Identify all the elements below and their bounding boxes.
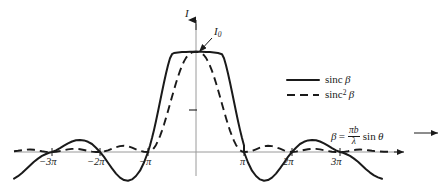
y-axis-label: I: [185, 8, 189, 19]
legend-label-sinc: sinc: [325, 73, 343, 85]
equation-sin-function: sin: [363, 130, 376, 142]
legend-item-sinc-squared: sinc2 β: [325, 89, 354, 100]
equation-fraction: πbλ: [348, 126, 360, 146]
legend-variable-beta-squared: β: [349, 88, 354, 100]
x-tick-label-neg2pi: −2π: [87, 157, 105, 168]
legend-variable-beta: β: [345, 73, 350, 85]
sinc-curve: [14, 52, 382, 181]
x-tick-label-2pi: 2π: [283, 157, 294, 168]
x-tick-label-pi: π: [240, 157, 245, 168]
x-tick-label-3pi: 3π: [331, 157, 342, 168]
peak-annotation-arrow: [199, 38, 212, 52]
equation-beta-symbol: β: [331, 130, 336, 142]
plot-canvas: [0, 0, 448, 196]
legend-label-sinc-squared: sinc: [325, 88, 343, 100]
equation-denominator: λ: [348, 136, 360, 147]
legend-item-sinc: sinc β: [325, 74, 350, 85]
peak-intensity-subscript: 0: [218, 30, 222, 39]
equation-equals-sign: =: [339, 130, 345, 142]
x-tick-label-negpi: −π: [139, 157, 151, 168]
peak-intensity-label: I0: [214, 26, 221, 39]
equation-numerator: πb: [348, 126, 360, 136]
x-tick-label-neg3pi: −3π: [39, 157, 57, 168]
diffraction-intensity-figure: I I0 −3π −2π −π π 2π 3π sinc β sinc2 β β…: [0, 0, 448, 196]
legend-label-exponent: 2: [343, 88, 347, 97]
equation-theta-symbol: θ: [378, 130, 383, 142]
beta-equation: β = πbλ sin θ: [331, 126, 383, 146]
